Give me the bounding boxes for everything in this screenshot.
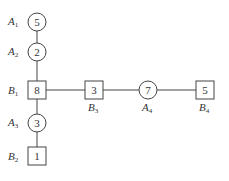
node-label: A4	[141, 101, 153, 115]
node-B2: 1 B2	[8, 147, 46, 165]
node-value: 3	[91, 84, 97, 96]
node-label: B3	[88, 101, 99, 115]
node-B3: 3 B3	[85, 81, 103, 115]
tree-diagram: 5 A1 2 A2 8 B1 3 A3 1 B2 3 B3 7 A4 5	[0, 0, 229, 181]
node-label: A3	[7, 116, 19, 130]
node-value: 8	[34, 84, 40, 96]
node-value: 2	[34, 46, 40, 58]
node-label: B1	[8, 84, 19, 98]
node-B4: 5 B4	[196, 81, 214, 115]
node-value: 5	[202, 84, 208, 96]
node-label: A2	[7, 45, 19, 59]
node-label: B4	[199, 101, 210, 115]
node-A1: 5 A1	[7, 13, 46, 31]
node-B1: 8 B1	[8, 81, 46, 99]
node-A2: 2 A2	[7, 43, 46, 61]
node-label: A1	[7, 15, 19, 29]
node-value: 3	[34, 117, 40, 129]
node-value: 5	[34, 16, 40, 28]
node-value: 1	[34, 150, 40, 162]
node-label: B2	[8, 150, 19, 164]
node-A3: 3 A3	[7, 114, 46, 132]
node-A4: 7 A4	[139, 81, 157, 115]
node-value: 7	[145, 84, 151, 96]
